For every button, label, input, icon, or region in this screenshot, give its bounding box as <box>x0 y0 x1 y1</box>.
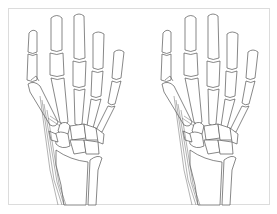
hand-diagrams <box>0 0 277 214</box>
left-hand-skeleton <box>27 14 124 205</box>
right-hand-skeleton <box>161 14 258 205</box>
